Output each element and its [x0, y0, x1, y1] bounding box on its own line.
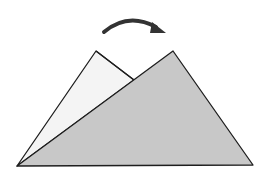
front-triangle: [17, 51, 253, 166]
arrowhead-icon: [150, 22, 166, 33]
fold-arrow-icon: [104, 21, 156, 32]
fold-diagram: [0, 0, 267, 175]
diagram-canvas: [0, 0, 267, 175]
